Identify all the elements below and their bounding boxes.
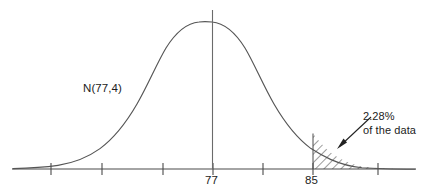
callout-percent-text: 2.28% xyxy=(363,110,416,124)
shaded-tail-region xyxy=(313,134,405,170)
normal-distribution-figure: N(77,4) 77 85 2.28% of the data xyxy=(0,0,428,195)
normal-curve-path xyxy=(13,22,415,170)
x-tick-label-cutoff: 85 xyxy=(305,174,318,186)
distribution-plot-svg xyxy=(0,0,428,195)
x-tick-label-mean: 77 xyxy=(205,174,218,186)
callout-arrow-head xyxy=(337,139,347,150)
tail-percentage-callout: 2.28% of the data xyxy=(363,110,416,137)
callout-description-text: of the data xyxy=(363,124,416,138)
distribution-label: N(77,4) xyxy=(83,82,122,94)
